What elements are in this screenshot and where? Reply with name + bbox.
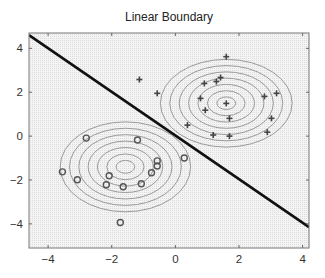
y-tick-label: 0: [17, 130, 23, 142]
x-tick-label: −2: [105, 253, 118, 265]
chart-title: Linear Boundary: [125, 10, 213, 24]
y-tick-label: 4: [17, 42, 24, 54]
x-tick-label: 2: [236, 253, 242, 265]
x-tick-label: 0: [172, 253, 178, 265]
y-tick-label: 2: [17, 86, 23, 98]
x-tick-label: −4: [42, 253, 56, 265]
y-tick-label: −2: [10, 174, 23, 186]
x-tick-label: 4: [299, 253, 306, 265]
linear-boundary-chart: Linear Boundary −4−2024 −4−2024: [0, 0, 325, 278]
y-tick-label: −4: [10, 218, 24, 230]
